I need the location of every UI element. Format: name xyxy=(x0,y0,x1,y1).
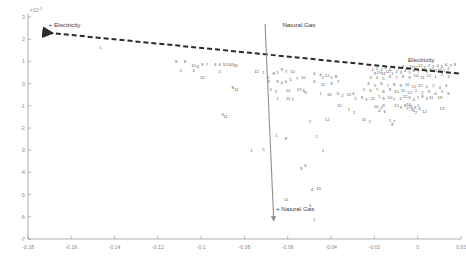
data-point-label: 12 xyxy=(325,117,330,122)
data-point-label: 5 xyxy=(382,76,385,81)
natural-gas-bottom-label: + Natural Gas xyxy=(276,205,314,212)
data-point-label: 2 xyxy=(353,110,356,115)
data-point-label: 1 xyxy=(276,96,279,101)
data-point-label: 2 xyxy=(313,217,316,222)
x-tick-label: -0.18 xyxy=(22,244,34,250)
x-tick-label: 0 xyxy=(416,244,419,250)
data-point-label: 6 xyxy=(218,62,221,67)
data-point-label: 8 xyxy=(273,71,276,76)
data-point-label: 2 xyxy=(368,119,371,124)
x-tick-label: -0.12 xyxy=(152,244,164,250)
data-point-label: 8 xyxy=(393,82,396,87)
data-point-label: 1 xyxy=(391,71,394,76)
data-point-label: 2 xyxy=(179,68,182,73)
data-point-label: 12 xyxy=(337,103,342,108)
data-point-label: 10 xyxy=(394,89,399,94)
data-point-label: 3 xyxy=(313,79,316,84)
data-point-label: 12 xyxy=(407,90,412,95)
data-point-label: 8 xyxy=(402,74,405,79)
x-tick-label: -0.1 xyxy=(197,244,206,250)
data-point-label: 2 xyxy=(421,90,424,95)
data-point-label: 13 xyxy=(440,106,445,111)
data-point-label: 11 xyxy=(321,82,326,87)
data-point-label: 9 xyxy=(408,75,411,80)
data-point-label: 11 xyxy=(362,117,367,122)
data-point-label: 5 xyxy=(330,75,333,80)
data-point-label: 2 xyxy=(432,83,435,88)
y-tick-label: 2 xyxy=(22,36,25,42)
data-point-label: 8 xyxy=(454,62,457,67)
data-point-label: 3 xyxy=(369,75,372,80)
data-point-label: 1 xyxy=(236,63,239,68)
data-point-label: 1 xyxy=(443,68,446,73)
data-point-label: 7 xyxy=(393,119,396,124)
data-point-label: 11 xyxy=(286,96,291,101)
x-axis-ticks: -0.18-0.16-0.14-0.12-0.1-0.08-0.06-0.04-… xyxy=(22,236,466,250)
data-point-label: 1 xyxy=(378,94,381,99)
data-point-label: 1 xyxy=(275,133,278,138)
data-point-label: 6 xyxy=(369,88,372,93)
x-tick-label: -0.14 xyxy=(109,244,121,250)
data-point-label: 1 xyxy=(348,107,351,112)
data-point-label: 9 xyxy=(382,103,385,108)
data-point-label: 12 xyxy=(200,75,205,80)
data-point-label: 5 xyxy=(417,95,420,100)
data-point-label: 8 xyxy=(285,136,288,141)
data-point-label: 10 xyxy=(405,82,410,87)
data-point-label: 9 xyxy=(300,166,303,171)
y-tick-label: -7 xyxy=(20,236,25,242)
electricity-line-label: Electricity xyxy=(408,56,435,63)
data-point-label: 7 xyxy=(205,62,208,67)
data-point-label: 1 xyxy=(309,119,312,124)
data-point-label: 2 xyxy=(441,72,444,77)
loading-vectors xyxy=(44,24,459,220)
data-point-label: 7 xyxy=(291,97,294,102)
y-tick-label: -6 xyxy=(20,214,25,220)
data-point-label: 4 xyxy=(313,71,316,76)
data-point-label: 1 xyxy=(250,148,253,153)
data-point-label: 11 xyxy=(420,75,425,80)
data-point-label: 10 xyxy=(301,75,306,80)
y-tick-label: -4 xyxy=(20,169,25,175)
y-axis-exponent-label: ×10-3 xyxy=(30,7,42,13)
data-point-label: 2 xyxy=(341,93,344,98)
y-axis-ticks: 3210-1-2-3-4-5-6-7 xyxy=(20,14,31,242)
data-point-label: 9 xyxy=(281,67,284,72)
data-point-label: 4 xyxy=(367,81,370,86)
natural-gas-vector xyxy=(265,24,274,220)
data-point-label: 6 xyxy=(447,91,450,96)
data-point-label: 3 xyxy=(447,74,450,79)
data-point-label: 2 xyxy=(315,134,318,139)
data-point-label: 7 xyxy=(285,69,288,74)
data-point-label: 1 xyxy=(434,74,437,79)
data-point-label: 4 xyxy=(418,106,421,111)
data-point-label: 3 xyxy=(365,97,368,102)
data-point-label: 7 xyxy=(296,76,299,81)
data-point-label: 8 xyxy=(382,89,385,94)
data-point-label: 6 xyxy=(337,91,340,96)
data-point-label: 4 xyxy=(214,62,217,67)
data-point-label: 11 xyxy=(429,95,434,100)
data-point-label: 5 xyxy=(441,89,444,94)
data-point-label: 7 xyxy=(376,87,379,92)
data-point-label: 9 xyxy=(389,87,392,92)
x-tick-label: 0.02 xyxy=(456,244,466,250)
data-point-label: 9 xyxy=(330,81,333,86)
data-point-label: 4 xyxy=(281,80,284,85)
data-point-label: 9 xyxy=(304,90,307,95)
scatter-chart-figure: -0.18-0.16-0.14-0.12-0.1-0.08-0.06-0.04-… xyxy=(0,0,466,264)
y-exponent-superscript: -3 xyxy=(38,7,41,11)
data-point-label: 10 xyxy=(316,186,321,191)
data-point-label: 11 xyxy=(234,87,239,92)
data-point-label: 13 xyxy=(437,95,442,100)
data-point-labels: 5881069746910113124211112811685971039465… xyxy=(99,45,456,222)
data-point-label: 11 xyxy=(254,69,259,74)
data-point-label: 5 xyxy=(262,147,265,152)
y-tick-label: 0 xyxy=(22,81,25,87)
data-point-label: 4 xyxy=(311,187,314,192)
data-point-label: 9 xyxy=(276,79,279,84)
data-point-label: 6 xyxy=(285,79,288,84)
data-point-label: 4 xyxy=(445,83,448,88)
x-tick-label: -0.16 xyxy=(65,244,77,250)
data-point-label: 7 xyxy=(449,63,452,68)
